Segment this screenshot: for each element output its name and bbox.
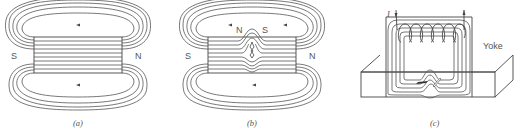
arrow-icon xyxy=(228,24,232,27)
bar-magnet xyxy=(34,37,122,73)
arrow-icon xyxy=(252,84,256,87)
arrow-icon xyxy=(283,24,287,27)
flux-lines xyxy=(388,20,470,98)
figure-c: I Yoke (c) xyxy=(361,9,513,128)
pole-label-n: N xyxy=(309,51,316,61)
defect-pole-label-n: N xyxy=(236,25,243,35)
arrow-icon xyxy=(76,24,80,27)
caption-b: (b) xyxy=(247,118,257,128)
caption-c: (c) xyxy=(430,118,440,128)
figure-canvas: S N (a) xyxy=(0,0,527,129)
yoke-label: Yoke xyxy=(483,41,503,51)
pole-label-n: N xyxy=(135,51,142,61)
figure-b: N S S N (b) xyxy=(179,0,324,128)
coil xyxy=(396,10,465,42)
caption-a: (a) xyxy=(73,118,83,128)
pole-label-s: S xyxy=(11,51,17,61)
current-arrow-icon xyxy=(463,10,466,15)
current-label: I xyxy=(386,9,391,19)
test-block xyxy=(361,55,513,97)
pole-label-s: S xyxy=(185,51,191,61)
figure-a: S N (a) xyxy=(5,0,150,128)
arrow-icon xyxy=(76,84,80,87)
defect-pole-label-s: S xyxy=(262,25,268,35)
